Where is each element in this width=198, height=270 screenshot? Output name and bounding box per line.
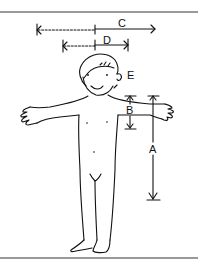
measurement-arrow-a: A [147,96,160,200]
right-foot [93,240,110,253]
left-eye [87,74,89,76]
left-foot [71,240,92,252]
left-arm-bottom [37,115,79,123]
diagram-svg: C D [0,0,198,270]
neck-mark [114,85,117,88]
label-b: B [126,104,133,116]
hair-strands [100,62,110,66]
right-body-side [110,115,118,240]
label-a: A [149,143,157,155]
right-nipple [106,121,108,123]
hair-outline [80,54,118,86]
measurement-arrow-c: C [37,17,155,35]
face-outline [83,77,113,95]
left-hand [21,107,37,125]
right-arm-bottom [118,115,162,119]
label-e: E [127,69,134,81]
label-c: C [118,17,126,29]
inner-leg-line [95,181,97,240]
right-eye [106,74,108,76]
left-nipple [86,122,88,124]
right-hand [162,104,173,120]
ear [117,74,121,81]
navel [93,151,95,153]
measurement-arrow-d: D [63,34,128,52]
left-body-side [79,115,84,240]
mouth [91,86,103,89]
left-arm-top [30,96,88,108]
crotch [90,174,101,181]
measurement-diagram: C D [0,0,198,270]
label-d: D [103,34,111,46]
hair-fringe [84,66,114,78]
